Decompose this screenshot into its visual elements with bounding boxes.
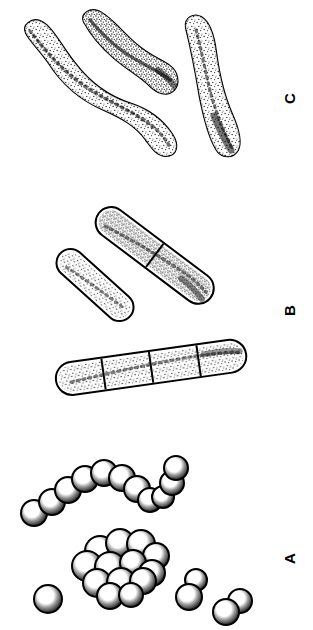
- streptobacillus-chain: [54, 338, 249, 397]
- figure-artwork: [0, 0, 313, 630]
- curved-vibrio-right: [178, 10, 252, 165]
- panel-label-c: C: [282, 89, 297, 109]
- panel-b-artwork: [51, 201, 249, 397]
- diplococcus-pair-lower: [213, 589, 252, 625]
- panel-label-b: B: [282, 301, 297, 321]
- panel-label-a: A: [282, 549, 297, 569]
- bacterial-morphology-figure: C B A: [0, 0, 313, 630]
- single-coccus: [34, 585, 62, 613]
- single-bacillus: [51, 243, 140, 327]
- streptococcus-chain: [21, 456, 188, 526]
- panel-a-artwork: [21, 456, 252, 625]
- panel-c-artwork: [18, 4, 252, 165]
- staphylococcus-cluster: [72, 529, 169, 609]
- diplococcus-pair-upper: [176, 569, 207, 610]
